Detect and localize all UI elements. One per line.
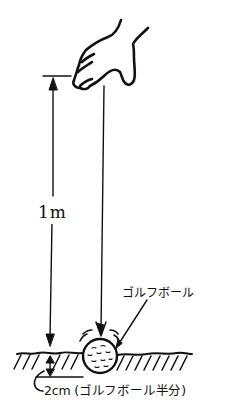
arrow-down-icon	[46, 334, 54, 346]
hand-icon	[73, 20, 148, 89]
golf-ball-drop-diagram	[0, 0, 226, 420]
height-dimension-line-lower	[50, 222, 52, 338]
depth-label: 2cm (ゴルフボール半分)	[44, 380, 186, 399]
golf-ball-label: ゴルフボール	[122, 283, 194, 300]
ball-pointer-line	[118, 300, 147, 345]
golf-ball-icon	[83, 339, 117, 373]
drop-path-line	[101, 86, 104, 330]
drop-height-label: 1m	[38, 200, 67, 224]
arrow-up-icon	[49, 78, 57, 90]
